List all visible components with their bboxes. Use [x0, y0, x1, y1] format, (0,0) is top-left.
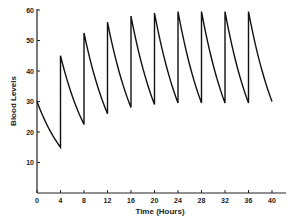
x-axis-title: Time (Hours) [135, 207, 185, 216]
y-tick-label: 30 [26, 98, 34, 105]
x-tick-label: 20 [151, 197, 159, 204]
y-tick-label: 20 [26, 129, 34, 136]
y-tick-label: 60 [26, 7, 34, 14]
y-tick-label: 40 [26, 68, 34, 75]
y-tick-label: 10 [26, 159, 34, 166]
plot-area [37, 12, 272, 148]
x-tick-label: 32 [221, 197, 229, 204]
x-tick-label: 40 [268, 197, 276, 204]
x-tick-label: 28 [198, 197, 206, 204]
x-tick-label: 36 [245, 197, 253, 204]
x-ticks: 0481216202428323640 [35, 190, 276, 204]
x-tick-label: 4 [59, 197, 63, 204]
x-tick-label: 24 [174, 197, 182, 204]
x-tick-label: 8 [82, 197, 86, 204]
y-axis-title: Blood Levels [9, 76, 18, 126]
x-tick-label: 0 [35, 197, 39, 204]
pk-chart: 102030405060 0481216202428323640 Time (H… [0, 0, 291, 224]
x-tick-label: 12 [104, 197, 112, 204]
x-tick-label: 16 [127, 197, 135, 204]
y-tick-label: 50 [26, 37, 34, 44]
blood-level-line [37, 12, 272, 148]
y-ticks: 102030405060 [26, 7, 40, 167]
